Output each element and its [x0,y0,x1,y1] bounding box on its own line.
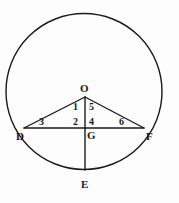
angle-label-3: 3 [39,117,44,127]
angle-label-6: 6 [119,117,124,127]
point-label-o: O [80,83,89,94]
point-label-e: E [81,179,88,190]
geometry-figure: O D F G E 1 5 2 4 3 6 [0,0,179,203]
angle-label-2: 2 [73,117,78,127]
point-label-g: G [87,130,96,141]
point-label-d: D [16,131,24,142]
angle-label-4: 4 [89,117,94,127]
point-label-f: F [146,131,153,142]
angle-label-5: 5 [89,102,94,112]
angle-label-1: 1 [73,102,78,112]
